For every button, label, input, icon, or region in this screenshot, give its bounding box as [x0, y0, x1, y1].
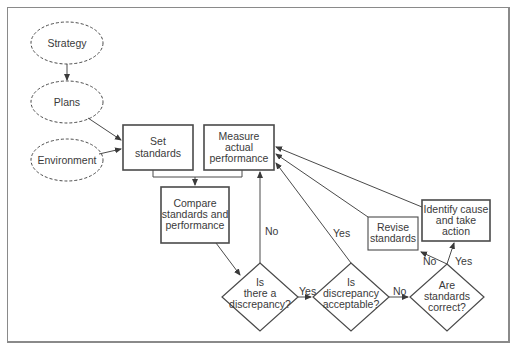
- edge-label-discrepancy-no: No: [265, 225, 278, 237]
- acceptable-label-3: acceptable?: [313, 299, 389, 310]
- set-standards-label-1: Set: [123, 136, 193, 147]
- edge-label-correct-no: No: [423, 255, 436, 267]
- discrepancy-label-3: discrepancy?: [222, 299, 298, 310]
- revise-label-2: standards: [368, 233, 418, 244]
- compare-label-3: performance: [161, 220, 229, 231]
- edge-label-discrepancy-yes: Yes: [299, 285, 316, 297]
- environment-label: Environment: [31, 155, 103, 166]
- edge-label-acceptable-yes: Yes: [333, 227, 350, 239]
- edge-label-acceptable-no: No: [393, 285, 406, 297]
- edge-label-correct-yes: Yes: [455, 255, 472, 267]
- measure-label-3: performance: [204, 153, 274, 164]
- plans-label: Plans: [31, 97, 103, 108]
- set-standards-label-2: standards: [123, 148, 193, 159]
- correct-label-3: correct?: [410, 302, 484, 313]
- strategy-label: Strategy: [31, 38, 103, 49]
- identify-label-3: action: [422, 226, 490, 237]
